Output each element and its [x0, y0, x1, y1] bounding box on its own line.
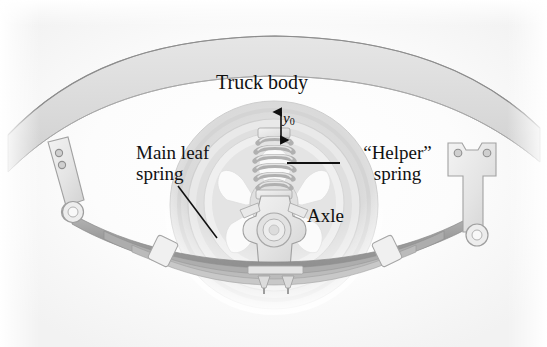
- suspension-diagram: Truck body Main leafspring “Helper”sprin…: [0, 0, 547, 347]
- label-axle: Axle: [307, 206, 344, 227]
- label-y0-deflection: y0: [283, 110, 295, 128]
- label-main-leaf-spring-line2: spring: [136, 163, 184, 184]
- label-y0-subscript: 0: [290, 116, 295, 127]
- vignette-right: [507, 0, 547, 347]
- label-y0-symbol: y: [283, 110, 290, 126]
- label-main-leaf-spring: Main leafspring: [136, 143, 209, 184]
- vignette-top: [0, 0, 547, 26]
- vignette-left: [0, 0, 40, 347]
- label-main-leaf-spring-line1: Main leaf: [136, 142, 209, 163]
- vignette-layer: [0, 0, 547, 347]
- label-truck-body: Truck body: [216, 72, 308, 94]
- label-helper-spring-line1: “Helper”: [363, 142, 432, 163]
- label-helper-spring: “Helper”spring: [345, 143, 450, 184]
- label-helper-spring-line2: spring: [374, 163, 422, 184]
